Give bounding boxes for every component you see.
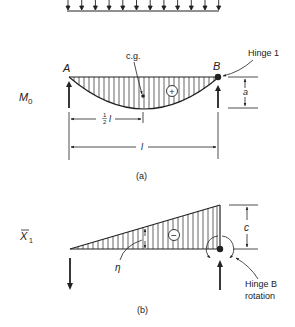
row-label-x1-sub: 1 (29, 237, 33, 244)
support-reaction-a (66, 81, 72, 108)
reaction-down-left (67, 258, 73, 290)
panel-b: X 1 (19, 205, 277, 315)
dimension-half-var: l (109, 114, 112, 124)
hinge-b-label-line1: Hinge B (245, 279, 277, 289)
cg-label: c.g. (126, 51, 141, 61)
svg-text:−: − (171, 230, 177, 241)
point-a-label: A (62, 62, 70, 74)
hinge-b-pointer (236, 258, 258, 279)
eta-label: η (115, 262, 121, 273)
load-arrows (66, 0, 221, 10)
row-label-x1: X (19, 230, 28, 242)
hinge-1-pointer (223, 60, 253, 76)
cg-pointer (134, 62, 142, 94)
hinge-1-label: Hinge 1 (248, 48, 279, 58)
moment-diagram-parabola (69, 77, 219, 109)
hinge-b-dot (217, 246, 223, 252)
caption-a: (a) (136, 171, 147, 181)
panel-a: M 0 A B (19, 48, 279, 181)
dimension-a-label: a (243, 87, 248, 97)
dimension-c-label: c (244, 222, 249, 233)
support-reaction-b (215, 85, 221, 108)
structural-diagram: M 0 A B (0, 0, 295, 327)
point-b-label: B (213, 60, 220, 72)
dimension-half-num: 1 (103, 112, 107, 118)
positive-sign: + (167, 86, 178, 97)
svg-text:+: + (169, 87, 174, 97)
negative-sign: − (169, 230, 180, 241)
cg-dot (141, 94, 145, 98)
row-label-m0-sub: 0 (28, 97, 33, 106)
distributed-load (66, 0, 221, 11)
dimension-full-label: l (141, 142, 144, 152)
reaction-up-right (217, 260, 223, 290)
dimension-half-den: 2 (103, 119, 107, 125)
hinge-1-dot (215, 74, 221, 80)
caption-b: (b) (137, 305, 148, 315)
hinge-b-label-line2: rotation (245, 291, 275, 301)
